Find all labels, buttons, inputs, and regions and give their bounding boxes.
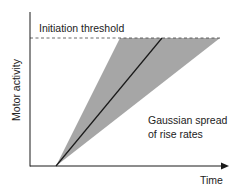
- y-axis-label: Motor activity: [11, 59, 22, 121]
- spread-label-line2: of rise rates: [148, 129, 203, 140]
- threshold-label: Initiation threshold: [39, 23, 124, 34]
- x-axis-label: Time: [200, 175, 223, 186]
- diagram-root: Initiation threshold Motor activity Gaus…: [0, 0, 244, 193]
- spread-label-line1: Gaussian spread: [148, 115, 227, 126]
- x-axis-arrow-icon: [221, 163, 229, 170]
- mean-rise-line: [56, 38, 162, 166]
- rise-rate-spread-fan: [56, 38, 220, 166]
